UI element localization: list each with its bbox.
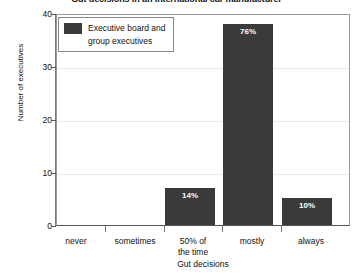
bar-value-label-always: 10% <box>282 201 332 210</box>
bar-mostly: 76% <box>223 24 273 225</box>
x-tick-label-mostly: mostly <box>222 236 282 247</box>
legend-swatch-icon <box>64 23 82 34</box>
bar-50-percent-of-the-time: 14% <box>165 188 215 225</box>
bar-always: 10% <box>282 198 332 225</box>
x-tick-label-never: never <box>46 236 106 247</box>
x-tick-label-always: always <box>281 236 341 247</box>
y-tick-label-10: 10 <box>26 168 52 178</box>
y-tick-label-20: 20 <box>26 115 52 125</box>
y-tick-mark-0 <box>51 226 56 227</box>
chart-page: Gut decisions in an international car ma… <box>0 0 353 279</box>
y-tick-label-30: 30 <box>26 62 52 72</box>
x-tick-mark-1 <box>105 226 106 232</box>
x-tick-mark-2 <box>164 226 165 232</box>
bar-value-label-50-percent-of-the-time: 14% <box>165 191 215 200</box>
gridline-20 <box>57 121 349 122</box>
x-tick-mark-3 <box>222 226 223 232</box>
legend-label: Executive board and group executives <box>88 22 166 47</box>
chart-title: Gut decisions in an international car ma… <box>0 0 353 4</box>
gridline-10 <box>57 174 349 175</box>
chart-legend: Executive board and group executives <box>58 17 174 52</box>
y-axis-title: Number of executives <box>16 13 25 153</box>
x-tick-label-50-percent-of-the-time: 50% of the time <box>163 236 223 257</box>
y-tick-label-40: 40 <box>26 9 52 19</box>
x-tick-mark-4 <box>281 226 282 232</box>
x-axis-title: Gut decisions <box>56 259 350 269</box>
y-tick-label-0: 0 <box>26 221 52 231</box>
bar-value-label-mostly: 76% <box>223 27 273 36</box>
x-tick-label-sometimes: sometimes <box>105 236 165 247</box>
gridline-30 <box>57 68 349 69</box>
